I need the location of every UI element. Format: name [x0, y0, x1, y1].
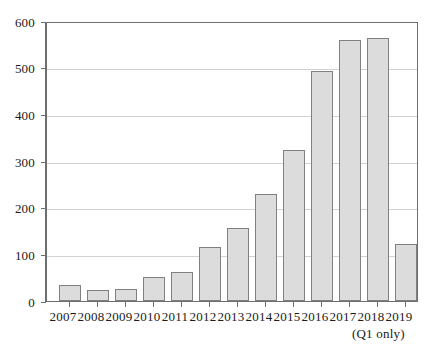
x-tick-mark-2017 [349, 302, 350, 307]
gridline-200 [47, 209, 417, 210]
bar-2010 [143, 277, 165, 301]
bar-2015 [283, 150, 305, 301]
x-tick-mark-2014 [265, 302, 266, 307]
x-tick-mark-2009 [125, 302, 126, 307]
bar-2008 [87, 290, 109, 301]
bar-2016 [311, 71, 333, 301]
y-tick-label-0: 0 [1, 296, 35, 309]
bar-2011 [171, 272, 193, 301]
bar-2014 [255, 194, 277, 301]
bar-chart: 600 500 400 300 200 100 0 [0, 0, 441, 348]
y-tick-label-600: 600 [1, 16, 35, 29]
x-tick-mark-2013 [237, 302, 238, 307]
y-tick-label-100: 100 [1, 249, 35, 262]
bar-2017 [339, 40, 361, 301]
x-tick-mark-2015 [293, 302, 294, 307]
y-tick-label-400: 400 [1, 109, 35, 122]
bar-2018 [367, 38, 389, 301]
y-tick-label-500: 500 [1, 62, 35, 75]
plot-area [46, 22, 418, 302]
x-tick-mark-2012 [209, 302, 210, 307]
bar-2013 [227, 228, 249, 301]
gridline-500 [47, 69, 417, 70]
y-tick-mark-0 [41, 302, 46, 303]
x-tick-mark-2018 [377, 302, 378, 307]
x-tick-mark-2019 [405, 302, 406, 307]
gridline-400 [47, 116, 417, 117]
x-tick-mark-2011 [181, 302, 182, 307]
x-tick-mark-2007 [69, 302, 70, 307]
x-tick-mark-2016 [321, 302, 322, 307]
y-axis: 600 500 400 300 200 100 0 [0, 0, 46, 348]
x-axis-note-q1-only: (Q1 only) [352, 327, 405, 341]
x-tick-mark-2010 [153, 302, 154, 307]
bar-2019 [395, 244, 417, 301]
gridline-300 [47, 163, 417, 164]
y-tick-label-300: 300 [1, 156, 35, 169]
bar-2009 [115, 289, 137, 301]
x-tick-mark-2008 [97, 302, 98, 307]
bar-2007 [59, 285, 81, 301]
x-tick-label-2019: 2019 [378, 310, 420, 324]
bar-2012 [199, 247, 221, 301]
y-tick-label-200: 200 [1, 202, 35, 215]
